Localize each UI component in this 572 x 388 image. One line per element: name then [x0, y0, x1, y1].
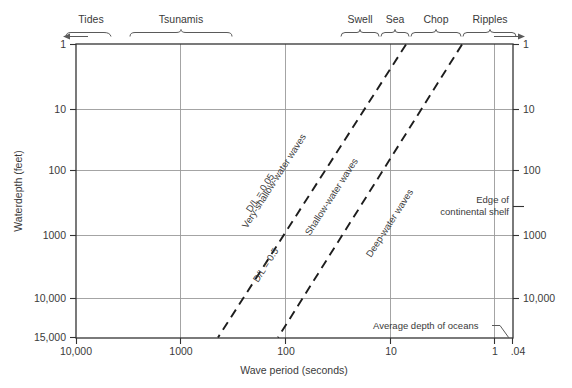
y-axis-title: Waterdepth (feet) — [12, 150, 24, 231]
annotation-average-depth-of-oceans: Average depth of oceans — [373, 320, 479, 331]
category-label-swell: Swell — [347, 13, 372, 25]
y-tick-label-1: 1 — [60, 38, 66, 50]
category-label-tides: Tides — [78, 13, 103, 25]
wave-classification-chart: Very-shallow-water waves Shallow-water w… — [0, 0, 572, 388]
x-tick-label-10: 10 — [385, 345, 397, 357]
x-tick-label-1000: 1000 — [169, 345, 193, 357]
x-tick-label-10000: 10,000 — [60, 345, 92, 357]
y-tick-label-100: 100 — [48, 164, 66, 176]
chart-figure: Very-shallow-water waves Shallow-water w… — [0, 0, 572, 388]
y-tick-label-10: 10 — [54, 103, 66, 115]
category-label-ripples: Ripples — [472, 13, 507, 25]
x-axis-title: Wave period (seconds) — [240, 364, 348, 376]
y-tick-label-1000: 1000 — [43, 229, 67, 241]
y-right-tick-label-100: 100 — [523, 164, 541, 176]
y-right-tick-label-10: 10 — [523, 103, 535, 115]
y-right-tick-label-10000: 10,000 — [523, 292, 555, 304]
category-label-chop: Chop — [423, 13, 448, 25]
annotation-edge-of: Edge of — [476, 194, 509, 205]
y-tick-label-15000: 15,000 — [34, 331, 66, 343]
y-tick-label-10000: 10,000 — [34, 292, 66, 304]
x-tick-label-100: 100 — [277, 345, 295, 357]
y-right-tick-label-1000: 1000 — [523, 229, 547, 241]
annotation-continental-shelf: continental shelf — [440, 206, 509, 217]
y-right-tick-label-1: 1 — [523, 38, 529, 50]
x-tick-label-1: 1 — [492, 345, 498, 357]
x-tick-label-004: .04 — [511, 345, 526, 357]
category-label-tsunamis: Tsunamis — [159, 13, 203, 25]
category-label-sea: Sea — [386, 13, 405, 25]
